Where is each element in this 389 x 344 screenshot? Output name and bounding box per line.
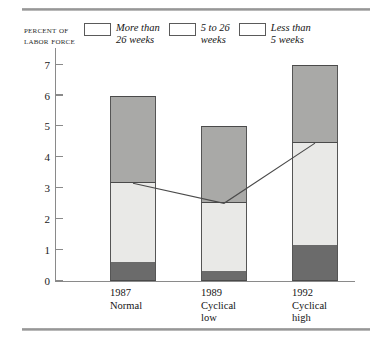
bar-segment [110, 182, 156, 262]
top-divider-rule [22, 8, 370, 11]
y-tick-label: 3 [45, 182, 51, 194]
bar-1989 [201, 126, 247, 280]
x-category-year: 1989 [201, 287, 267, 300]
plot-area: 01234567 [55, 66, 355, 282]
bar-1987 [110, 96, 156, 281]
legend-swatch-5-to-26-weeks [169, 23, 196, 36]
bar-segment [201, 271, 247, 280]
chart-legend: More than 26 weeks 5 to 26 weeks Less th… [84, 22, 311, 45]
bar-segment [292, 142, 338, 245]
y-axis-title-line2: labor force [24, 35, 86, 46]
y-tick-label: 5 [45, 120, 51, 132]
legend-item: Less than 5 weeks [239, 22, 311, 45]
bar-segment [292, 65, 338, 142]
x-category-label: 1989Cyclical low [201, 287, 267, 325]
x-category-year: 1987 [110, 287, 176, 300]
y-tick-mark [56, 125, 63, 126]
bottom-divider-rule [22, 328, 370, 331]
legend-label: Less than 5 weeks [271, 22, 311, 45]
bar-segment [110, 96, 156, 182]
y-tick-mark [56, 280, 63, 281]
x-category-label: 1987Normal [110, 287, 176, 312]
y-tick-mark [56, 64, 63, 65]
x-category-label: 1992Cyclical high [292, 287, 358, 325]
bar-segment [201, 126, 247, 202]
x-category-year: 1992 [292, 287, 358, 300]
y-tick-label: 6 [45, 90, 51, 102]
legend-label: More than 26 weeks [116, 22, 160, 45]
legend-item: 5 to 26 weeks [169, 22, 230, 45]
y-axis-line [55, 48, 56, 282]
x-category-sublabel: Normal [110, 300, 176, 313]
y-tick-mark [56, 187, 63, 188]
x-category-sublabel: Cyclical low [201, 300, 267, 325]
y-tick-label: 1 [45, 244, 51, 256]
y-tick-mark [56, 218, 63, 219]
y-axis-title-line1: Percent of [24, 24, 86, 35]
y-tick-label: 2 [45, 213, 51, 225]
y-tick-label: 7 [45, 59, 51, 71]
x-axis-line [55, 281, 355, 282]
y-tick-label: 0 [45, 275, 51, 287]
legend-swatch-more-than-26-weeks [84, 23, 111, 36]
bar-segment [292, 245, 338, 280]
bar-segment [201, 202, 247, 271]
legend-item: More than 26 weeks [84, 22, 160, 45]
y-tick-mark [56, 156, 63, 157]
legend-label: 5 to 26 weeks [201, 22, 230, 45]
x-category-sublabel: Cyclical high [292, 300, 358, 325]
y-tick-mark [56, 94, 63, 95]
y-axis-title: Percent of labor force [24, 24, 86, 46]
bar-segment [110, 262, 156, 281]
bar-1992 [292, 65, 338, 281]
y-tick-mark [56, 249, 63, 250]
legend-swatch-less-than-5-weeks [239, 23, 266, 36]
y-tick-label: 4 [45, 151, 51, 163]
